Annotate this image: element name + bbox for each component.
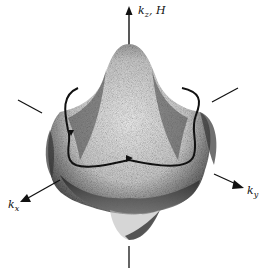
ky-arrow-icon <box>232 180 244 189</box>
fermi-surface-figure: kz, H kx ky <box>0 0 261 272</box>
right-axis-stub <box>212 88 238 102</box>
kz-axis-label: kz, H <box>138 4 165 19</box>
kz-arrow-icon <box>126 6 133 15</box>
kx-axis-label: kx <box>8 198 19 213</box>
ky-axis-line <box>214 174 236 184</box>
kx-arrow-icon <box>20 194 31 202</box>
surface-drawing <box>0 0 261 272</box>
kx-axis-line <box>28 180 60 198</box>
ky-axis-label: ky <box>247 184 258 199</box>
left-axis-stub <box>18 100 42 113</box>
